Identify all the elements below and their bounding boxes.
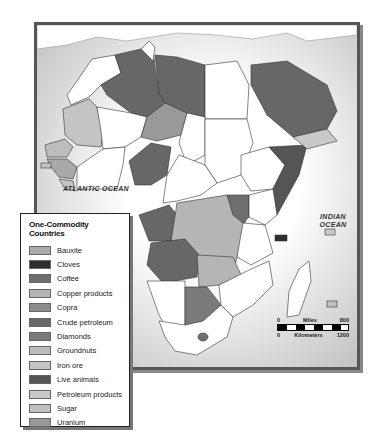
legend-label: Uranium [57, 418, 85, 427]
legend-label: Diamonds [57, 332, 91, 341]
atlantic-ocean-label: ATLANTIC OCEAN [63, 185, 129, 193]
legend-swatch [29, 375, 51, 384]
legend-item: Bauxite [29, 243, 121, 257]
legend-swatch [29, 332, 51, 341]
legend-label: Cloves [57, 260, 80, 269]
legend-label: Iron ore [57, 361, 83, 370]
legend-item: Groundnuts [29, 344, 121, 358]
km-start: 0 [277, 332, 280, 338]
legend-swatch [29, 289, 51, 298]
indian-ocean-label: INDIAN OCEAN [315, 213, 351, 229]
miles-start: 0 [277, 317, 280, 323]
legend-swatch [29, 418, 51, 427]
legend-item: Petroleum products [29, 387, 121, 401]
legend-label: Bauxite [57, 246, 82, 255]
legend-label: Petroleum products [57, 390, 122, 399]
scale-bar-graphic [277, 324, 349, 331]
legend-swatch [29, 390, 51, 399]
legend-item: Coffee [29, 272, 121, 286]
legend-item: Iron ore [29, 358, 121, 372]
legend-label: Coffee [57, 274, 79, 283]
miles-end: 800 [340, 317, 349, 323]
legend-label: Copra [57, 303, 77, 312]
legend-swatch [29, 303, 51, 312]
legend-swatch [29, 361, 51, 370]
km-end: 1200 [337, 332, 349, 338]
legend-label: Crude petroleum [57, 318, 113, 327]
legend-label: Live animals [57, 375, 99, 384]
legend-item: Copper products [29, 286, 121, 300]
legend-item: Uranium [29, 416, 121, 430]
legend-swatch [29, 260, 51, 269]
km-label: Kilometers [294, 332, 322, 338]
miles-label: Miles [303, 317, 317, 323]
legend-label: Copper products [57, 289, 112, 298]
legend: One-Commodity Countries BauxiteClovesCof… [20, 213, 130, 427]
legend-swatch [29, 404, 51, 413]
legend-item: Crude petroleum [29, 315, 121, 329]
legend-swatch [29, 246, 51, 255]
scale-bar: 0 Miles 800 0 Kilometers 1200 [277, 317, 349, 338]
legend-title: One-Commodity Countries [29, 220, 121, 238]
legend-label: Sugar [57, 404, 77, 413]
legend-item: Sugar [29, 401, 121, 415]
legend-item: Live animals [29, 373, 121, 387]
legend-swatch [29, 318, 51, 327]
legend-swatch [29, 274, 51, 283]
legend-label: Groundnuts [57, 346, 96, 355]
legend-item: Diamonds [29, 329, 121, 343]
legend-item: Copra [29, 301, 121, 315]
legend-item: Cloves [29, 257, 121, 271]
legend-swatch [29, 346, 51, 355]
